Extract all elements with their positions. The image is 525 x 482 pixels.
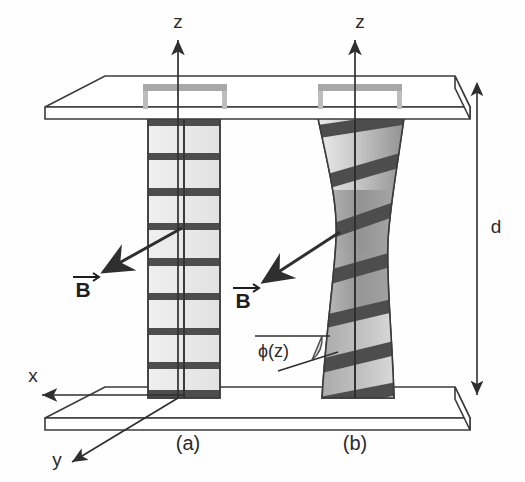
field-vector-b-label: B <box>235 289 250 312</box>
field-vector-b-arrow <box>263 232 340 282</box>
bracket-a-left-leg <box>143 91 148 109</box>
physics-diagram-figure: z z x y B B <box>0 0 525 482</box>
angle-arc <box>312 336 322 360</box>
bracket-a-right-leg <box>222 91 227 109</box>
field-vector-b: B <box>233 232 340 312</box>
bracket-a-crossbar <box>143 84 227 91</box>
ribbon-twisted-b <box>310 110 410 411</box>
panel-label-b: (b) <box>343 432 367 454</box>
bottom-plate-front-edge <box>45 418 470 430</box>
bottom-plate <box>45 387 470 430</box>
angle-label: ϕ(z) <box>258 341 289 361</box>
dimension-label-d: d <box>491 216 502 237</box>
bracket-b-left-leg <box>318 91 323 109</box>
bottom-plate-top-face <box>45 387 470 418</box>
top-plate <box>45 76 470 119</box>
bracket-b-crossbar <box>318 84 402 91</box>
field-vector-a-label: B <box>75 278 90 301</box>
y-axis-label: y <box>52 449 62 470</box>
top-plate-front-edge <box>45 107 470 119</box>
bracket-b-right-leg <box>397 91 402 109</box>
ribbon-untwisted-a <box>148 118 220 398</box>
z-axis-right-label: z <box>355 11 365 32</box>
z-axis-left-label: z <box>173 11 183 32</box>
x-axis-label: x <box>28 365 38 386</box>
top-plate-top-face <box>45 76 470 107</box>
diagram-canvas: z z x y B B <box>0 0 525 482</box>
plate-separation-dimension: d <box>477 85 501 395</box>
panel-label-a: (a) <box>176 432 200 454</box>
